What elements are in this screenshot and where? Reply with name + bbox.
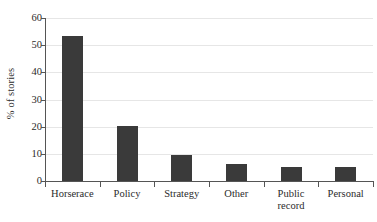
y-axis-tick-mark (41, 18, 45, 19)
x-axis-tick-mark (209, 182, 210, 187)
bar (226, 164, 247, 181)
x-axis-tick-label-line: Public (264, 188, 319, 200)
y-axis-tick-mark (41, 100, 45, 101)
x-axis-tick-mark (154, 182, 155, 187)
bar (117, 126, 138, 181)
y-axis-tick-mark (41, 45, 45, 46)
x-axis-tick-label-line: Other (209, 188, 264, 200)
x-axis-tick-label: Strategy (154, 188, 209, 200)
x-axis-tick-labels: HorseracePolicyStrategyOtherPublicrecord… (45, 188, 373, 222)
bar-chart: % of stories 0102030405060 HorseracePoli… (0, 0, 377, 222)
bars-layer (45, 18, 373, 181)
y-axis-title-text: % of stories (6, 67, 17, 118)
y-axis-tick-mark (41, 154, 45, 155)
x-axis-tick-label-line: Horserace (45, 188, 100, 200)
bar (335, 167, 356, 181)
x-axis-tick-mark (264, 182, 265, 187)
y-axis-tick-labels: 0102030405060 (20, 0, 42, 200)
x-axis-tick-label-line: record (264, 200, 319, 212)
x-axis-tick-label: Publicrecord (264, 188, 319, 211)
x-axis-tick-mark (373, 182, 374, 187)
x-axis-tick-label: Horserace (45, 188, 100, 200)
x-axis-tick-mark (100, 182, 101, 187)
y-axis-tick-mark (41, 127, 45, 128)
x-axis-tick-label: Policy (100, 188, 155, 200)
x-axis-tick-label: Personal (318, 188, 373, 200)
y-axis-title: % of stories (2, 0, 20, 186)
x-axis-tick-label-line: Strategy (154, 188, 209, 200)
x-axis-tick-label: Other (209, 188, 264, 200)
x-axis-tick-mark (45, 182, 46, 187)
bar (171, 155, 192, 181)
y-axis-tick-mark (41, 72, 45, 73)
x-axis-tick-label-line: Personal (318, 188, 373, 200)
x-axis-tick-mark (318, 182, 319, 187)
x-axis-tick-label-line: Policy (100, 188, 155, 200)
bar (281, 167, 302, 181)
bar (62, 36, 83, 181)
